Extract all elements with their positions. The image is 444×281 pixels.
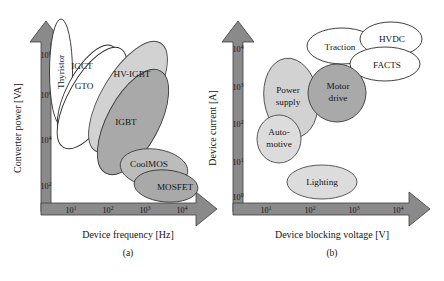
panel-b: 104 103 102 101 100 101 102 103 104 Devi… bbox=[207, 21, 430, 259]
region-label-gto: GTO bbox=[75, 81, 94, 91]
region-label-thyristor: Thyristor bbox=[56, 55, 66, 89]
region-label-power-supply: Power bbox=[276, 85, 299, 95]
panel-a-x-axis-title: Device frequency [Hz] bbox=[82, 229, 174, 240]
region-label-igct: IGCT bbox=[71, 61, 93, 71]
region-label-hv-igbt: HV-IGBT bbox=[114, 69, 151, 79]
panel-b-y-axis-title: Device current [A] bbox=[207, 90, 218, 166]
region-label-traction: Traction bbox=[325, 42, 356, 52]
region-label-automotive-2: motive bbox=[266, 139, 292, 149]
region-label-motor-drive-2: drive bbox=[329, 93, 348, 103]
panel-a-y-axis-title: Converter power [VA] bbox=[12, 83, 23, 173]
panel-b-x-axis-title: Device blocking voltage [V] bbox=[275, 229, 389, 240]
region-label-coolmos: CoolMOS bbox=[130, 159, 168, 169]
region-label-automotive: Auto- bbox=[268, 127, 289, 137]
figure-container: 108 106 104 102 101 102 103 104 Converte… bbox=[0, 0, 444, 281]
panel-a-caption: (a) bbox=[123, 248, 134, 259]
region-label-facts: FACTS bbox=[373, 60, 401, 70]
region-label-igbt: IGBT bbox=[115, 117, 137, 127]
region-label-mosfet: MOSFET bbox=[157, 182, 194, 192]
panel-b-caption: (b) bbox=[326, 248, 337, 259]
panel-a: 108 106 104 102 101 102 103 104 Converte… bbox=[12, 19, 217, 259]
region-label-power-supply-2: supply bbox=[276, 97, 301, 107]
region-label-hvdc: HVDC bbox=[379, 34, 405, 44]
region-label-lighting: Lighting bbox=[306, 177, 338, 187]
region-label-motor-drive: Motor bbox=[327, 81, 350, 91]
